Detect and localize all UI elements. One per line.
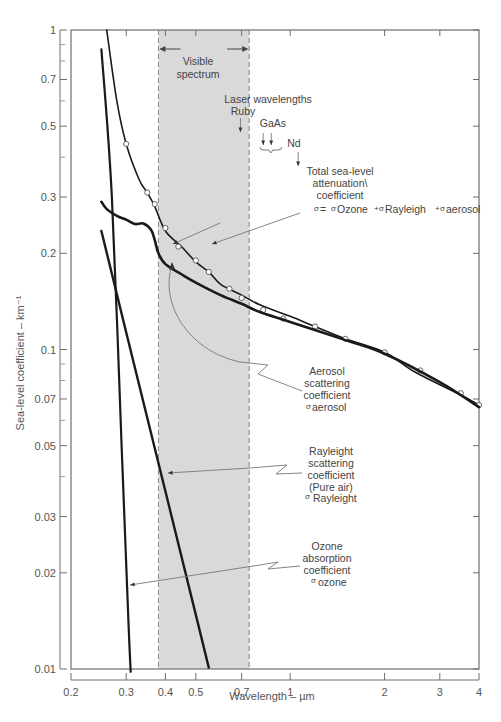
svg-text:aerosol: aerosol bbox=[446, 203, 480, 215]
svg-text:coefficient: coefficient bbox=[303, 389, 350, 401]
x-tick-label: 4 bbox=[476, 686, 482, 698]
svg-text:σ: σ bbox=[305, 492, 310, 501]
svg-text:=: = bbox=[320, 203, 326, 215]
data-marker bbox=[239, 295, 244, 300]
svg-text:coefficient: coefficient bbox=[307, 469, 354, 481]
total-attenuation-label: Total sea-level attenuation\ coefficient… bbox=[306, 165, 480, 215]
svg-text:scattering: scattering bbox=[308, 457, 354, 469]
data-marker bbox=[227, 286, 232, 291]
x-tick-label: 0.4 bbox=[158, 686, 173, 698]
svg-text:σ: σ bbox=[306, 402, 311, 411]
svg-text:Ozone: Ozone bbox=[337, 203, 368, 215]
aerosol-label: Aerosol scattering coefficient σ aerosol bbox=[303, 365, 350, 413]
svg-text:Total sea-level: Total sea-level bbox=[306, 165, 373, 177]
svg-text:Visible: Visible bbox=[183, 55, 214, 67]
chart: 0.20.30.40.50.71234 10.70.50.30.20.10.07… bbox=[0, 0, 501, 722]
visible-band-fill bbox=[158, 30, 249, 669]
y-tick-label: 1 bbox=[50, 24, 56, 36]
ozone-leader bbox=[260, 562, 300, 569]
y-tick-label: 0.02 bbox=[35, 567, 56, 579]
svg-text:attenuation\: attenuation\ bbox=[313, 177, 368, 189]
x-tick-label: 0.2 bbox=[63, 686, 78, 698]
svg-text:σ: σ bbox=[440, 204, 445, 213]
x-tick-label: 3 bbox=[437, 686, 443, 698]
svg-text:scattering: scattering bbox=[304, 377, 350, 389]
x-axis: 0.20.30.40.50.71234 bbox=[63, 30, 482, 698]
x-tick-label: 0.3 bbox=[119, 686, 134, 698]
svg-text:Rayleight: Rayleight bbox=[309, 445, 353, 457]
data-marker bbox=[163, 225, 168, 230]
nd-arrow-head bbox=[296, 161, 300, 166]
svg-text:σ: σ bbox=[379, 204, 384, 213]
svg-text:Rayleight: Rayleight bbox=[313, 492, 357, 504]
y-tick-label: 0.7 bbox=[41, 73, 56, 85]
y-tick-label: 0.07 bbox=[35, 393, 56, 405]
y-axis: 10.70.50.30.20.10.070.050.030.020.01 bbox=[35, 24, 479, 675]
y-tick-label: 0.01 bbox=[35, 663, 56, 675]
ozone-leader-arrow-head bbox=[130, 582, 135, 586]
svg-text:Ruby: Ruby bbox=[231, 105, 256, 117]
gaas-arrow-1-head bbox=[261, 140, 265, 145]
data-marker bbox=[193, 258, 198, 263]
data-marker bbox=[176, 244, 181, 249]
y-tick-label: 0.5 bbox=[41, 120, 56, 132]
rayleigh-leader bbox=[250, 465, 302, 474]
svg-text:Rayleigh: Rayleigh bbox=[385, 203, 426, 215]
data-marker bbox=[145, 190, 150, 195]
y-tick-label: 0.3 bbox=[41, 191, 56, 203]
y-axis-title: Sea-level coefficient – km⁻¹ bbox=[14, 295, 26, 430]
svg-text:GaAs: GaAs bbox=[260, 117, 286, 129]
data-marker bbox=[206, 269, 211, 274]
svg-text:Ozone: Ozone bbox=[312, 540, 343, 552]
svg-text:coefficient: coefficient bbox=[316, 189, 363, 201]
data-marker bbox=[124, 141, 129, 146]
svg-text:Nd: Nd bbox=[287, 137, 301, 149]
svg-text:absorption: absorption bbox=[302, 552, 351, 564]
rayleigh-label: Rayleight scattering coefficient (Pure a… bbox=[305, 445, 357, 504]
x-tick-label: 0.5 bbox=[188, 686, 203, 698]
y-tick-label: 0.03 bbox=[35, 511, 56, 523]
svg-text:Aerosol: Aerosol bbox=[309, 365, 345, 377]
svg-text:ozone: ozone bbox=[318, 576, 347, 588]
visible-spectrum-band bbox=[158, 30, 249, 669]
visible-spectrum-label: Visible spectrum bbox=[176, 55, 219, 80]
gaas-brace bbox=[260, 147, 282, 153]
x-axis-title: Wavelength – µm bbox=[229, 690, 314, 702]
y-tick-label: 0.2 bbox=[41, 247, 56, 259]
y-tick-label: 0.1 bbox=[41, 344, 56, 356]
svg-text:coefficient: coefficient bbox=[303, 564, 350, 576]
data-marker bbox=[152, 202, 157, 207]
svg-text:σ: σ bbox=[314, 204, 319, 213]
svg-text:σ: σ bbox=[311, 576, 316, 585]
ozone-label: Ozone absorption coefficient σ ozone bbox=[302, 540, 351, 588]
y-tick-label: 0.05 bbox=[35, 440, 56, 452]
gaas-arrow-2-head bbox=[269, 140, 273, 145]
svg-text:spectrum: spectrum bbox=[176, 68, 219, 80]
svg-text:aerosol: aerosol bbox=[312, 401, 346, 413]
x-tick-label: 2 bbox=[382, 686, 388, 698]
svg-text:Laser wavelengths: Laser wavelengths bbox=[224, 93, 312, 105]
svg-text:σ: σ bbox=[331, 204, 336, 213]
